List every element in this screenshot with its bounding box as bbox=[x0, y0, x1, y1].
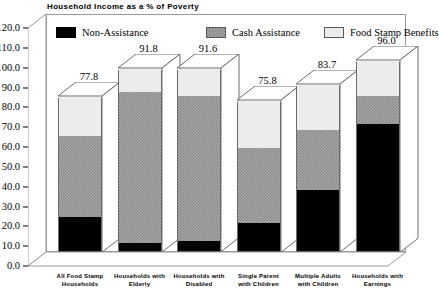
y-axis-tick-label: 60.0 bbox=[2, 142, 20, 152]
y-axis-tick-label: 70.0 bbox=[2, 122, 20, 132]
bar-segment-food-stamp-benefits bbox=[297, 85, 339, 130]
y-axis-tick-label: 80.0 bbox=[2, 102, 20, 112]
y-axis-tick-label: 10.0 bbox=[2, 241, 20, 251]
bar-segment-non-assistance bbox=[59, 217, 101, 251]
bar-segment-food-stamp-benefits bbox=[357, 61, 399, 97]
bar-segment-cash-assistance bbox=[238, 148, 280, 223]
bar-front-face bbox=[177, 70, 221, 252]
bar-segment-cash-assistance bbox=[119, 92, 161, 243]
bar-1[interactable] bbox=[118, 70, 162, 252]
bar-value-label-2: 91.6 bbox=[178, 43, 238, 54]
bar-segment-non-assistance bbox=[297, 190, 339, 251]
y-axis-tick-label: 0.0 bbox=[7, 261, 20, 271]
bar-segment-non-assistance bbox=[357, 124, 399, 251]
chart-title: Household Income as a % of Poverty bbox=[47, 2, 199, 11]
x-axis-label-line: Households with bbox=[341, 272, 415, 280]
bar-5[interactable] bbox=[356, 62, 400, 252]
bar-value-label-4: 83.7 bbox=[297, 59, 357, 70]
y-axis-tick-label: 110.0 bbox=[0, 43, 20, 53]
x-axis-labels: All Food StampHouseholdsHouseholds withE… bbox=[28, 272, 406, 298]
y-axis: 0.010.020.030.040.050.060.070.080.090.01… bbox=[0, 14, 28, 266]
bar-segment-non-assistance bbox=[119, 243, 161, 251]
bar-3[interactable] bbox=[237, 102, 281, 252]
bar-series-layer: 77.891.891.675.883.796.0 bbox=[28, 14, 406, 266]
bar-value-label-1: 91.8 bbox=[119, 43, 179, 54]
bar-segment-food-stamp-benefits bbox=[178, 69, 220, 96]
bar-front-face bbox=[356, 62, 400, 252]
bar-segment-non-assistance bbox=[178, 241, 220, 251]
y-axis-tick-label: 20.0 bbox=[2, 221, 20, 231]
y-axis-tick-label: 40.0 bbox=[2, 182, 20, 192]
bar-segment-cash-assistance bbox=[297, 130, 339, 190]
bar-4[interactable] bbox=[296, 86, 340, 252]
bar-segment-cash-assistance bbox=[178, 96, 220, 241]
y-axis-tick-label: 90.0 bbox=[2, 83, 20, 93]
y-axis-tick-label: 50.0 bbox=[2, 162, 20, 172]
y-axis-tick-label: 120.0 bbox=[0, 23, 20, 33]
bar-front-face bbox=[58, 98, 102, 252]
bar-segment-cash-assistance bbox=[357, 96, 399, 124]
bar-segment-non-assistance bbox=[238, 223, 280, 251]
bar-front-face bbox=[237, 102, 281, 252]
x-axis-label-5: Households withEarnings bbox=[341, 272, 415, 288]
x-axis-label-line: Earnings bbox=[341, 280, 415, 288]
bar-front-face bbox=[118, 70, 162, 252]
bar-front-face bbox=[296, 86, 340, 252]
y-axis-tick-label: 100.0 bbox=[0, 63, 20, 73]
bar-value-label-3: 75.8 bbox=[238, 75, 298, 86]
bar-2[interactable] bbox=[177, 70, 221, 252]
bar-segment-cash-assistance bbox=[59, 136, 101, 217]
bar-segment-food-stamp-benefits bbox=[59, 97, 101, 136]
bar-segment-food-stamp-benefits bbox=[238, 101, 280, 148]
bar-value-label-0: 77.8 bbox=[59, 71, 119, 82]
bar-segment-food-stamp-benefits bbox=[119, 69, 161, 92]
bar-value-label-5: 96.0 bbox=[357, 35, 417, 46]
bar-0[interactable] bbox=[58, 98, 102, 252]
y-axis-tick-label: 30.0 bbox=[2, 202, 20, 212]
